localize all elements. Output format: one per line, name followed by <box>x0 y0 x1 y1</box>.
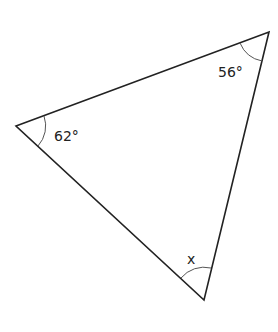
angle-label-bottom: x <box>187 251 195 267</box>
angle-label-left: 62° <box>54 128 79 144</box>
angle-label-top-right: 56° <box>218 64 243 80</box>
angle-arc-top-right <box>240 43 262 61</box>
angle-arc-bottom <box>181 267 211 278</box>
triangle-diagram: 62° 56° x <box>0 0 278 332</box>
angle-arc-left <box>38 116 46 146</box>
